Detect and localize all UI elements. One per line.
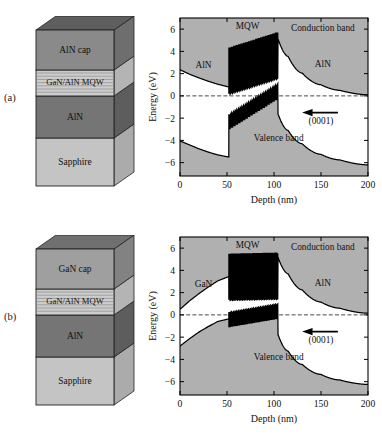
annotation-direction: (0001) [309, 116, 334, 127]
panel-b: (b) SapphireAlNGaN/AlN MQWGaN cap 050100… [0, 219, 382, 437]
y-tick-label: −6 [165, 157, 175, 168]
stack-layer-label-substrate: Sapphire [58, 157, 91, 167]
x-tick-label: 150 [314, 179, 329, 190]
x-tick-label: 0 [178, 179, 183, 190]
y-axis-title: Energy (eV) [147, 291, 159, 341]
panel-a-label: (a) [4, 92, 16, 103]
y-tick-label: −4 [165, 354, 175, 365]
panel-b-band-diagram: 050100150200−6−4−20246Depth (nm)Energy (… [146, 227, 378, 432]
figure-root: (a) SapphireAlNGaN/AlN MQWAlN cap 050100… [0, 0, 382, 437]
panel-a-band-diagram: 050100150200−6−4−20246Depth (nm)Energy (… [146, 8, 378, 213]
stack-layer-label-cap: GaN cap [58, 264, 91, 274]
y-tick-label: 2 [170, 287, 175, 298]
annotation-conduction-band: Conduction band [291, 23, 355, 33]
y-tick-label: −6 [165, 376, 175, 387]
annotation-direction: (0001) [309, 335, 334, 346]
annotation-valence-band: Valence band [254, 352, 304, 362]
annotation-left-material: AlN [195, 60, 211, 70]
stack-layer-label-barrier: AlN [67, 331, 83, 341]
y-tick-label: 2 [170, 68, 175, 79]
x-axis-title: Depth (nm) [251, 413, 297, 425]
annotation-mqw: MQW [236, 21, 260, 31]
y-tick-label: 4 [170, 46, 175, 57]
stack-layer-label-substrate: Sapphire [58, 376, 91, 386]
y-tick-label: 0 [170, 309, 175, 320]
y-tick-label: 4 [170, 265, 175, 276]
x-tick-label: 200 [361, 179, 376, 190]
annotation-right-material: AlN [315, 59, 331, 69]
y-tick-label: 6 [170, 243, 175, 254]
x-tick-label: 200 [361, 398, 376, 409]
stack-layer-label-mqw: GaN/AlN MQW [46, 77, 104, 87]
annotation-left-material: GaN [195, 279, 213, 289]
y-tick-label: −2 [165, 113, 175, 124]
y-tick-label: 0 [170, 90, 175, 101]
stack-layer-label-barrier: AlN [67, 112, 83, 122]
annotation-conduction-band: Conduction band [291, 242, 355, 252]
annotation-valence-band: Valence band [254, 133, 304, 143]
x-axis-title: Depth (nm) [251, 194, 297, 206]
annotation-right-material: AlN [315, 278, 331, 288]
x-tick-label: 50 [222, 398, 232, 409]
stack-layer-label-mqw: GaN/AlN MQW [46, 296, 104, 306]
x-tick-label: 0 [178, 398, 183, 409]
y-tick-label: −2 [165, 332, 175, 343]
panel-a: (a) SapphireAlNGaN/AlN MQWAlN cap 050100… [0, 0, 382, 218]
y-tick-label: −4 [165, 135, 175, 146]
x-tick-label: 100 [267, 179, 282, 190]
x-tick-label: 100 [267, 398, 282, 409]
y-tick-label: 6 [170, 24, 175, 35]
panel-b-layer-stack: SapphireAlNGaN/AlN MQWGaN cap [30, 235, 142, 413]
x-tick-label: 50 [222, 179, 232, 190]
panel-b-label: (b) [4, 311, 16, 322]
stack-layer-label-cap: AlN cap [59, 45, 91, 55]
y-axis-title: Energy (eV) [147, 72, 159, 122]
stack-layer-cap: AlN cap [36, 16, 134, 70]
stack-layer-cap: GaN cap [36, 235, 134, 289]
annotation-mqw: MQW [236, 240, 260, 250]
x-tick-label: 150 [314, 398, 329, 409]
panel-a-layer-stack: SapphireAlNGaN/AlN MQWAlN cap [30, 16, 142, 194]
